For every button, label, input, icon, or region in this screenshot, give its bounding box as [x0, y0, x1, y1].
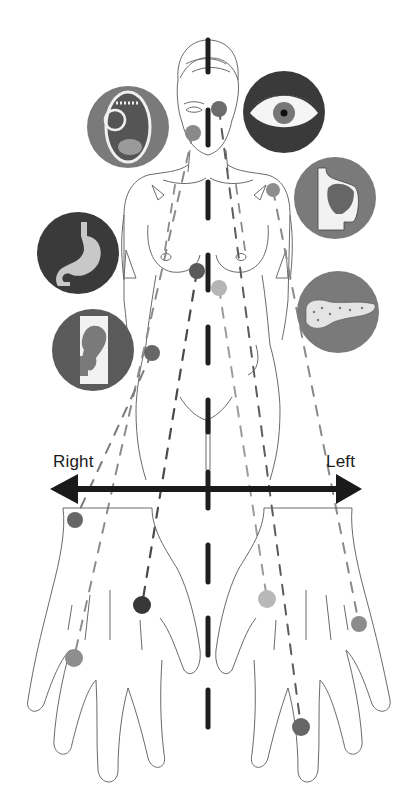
mouth-icon — [87, 86, 169, 168]
hip-point[interactable] — [144, 345, 160, 361]
liver-icon — [294, 157, 376, 239]
arrow-head-left-icon — [336, 474, 362, 504]
stomach-icon — [37, 212, 119, 294]
arrow-head-right-icon — [50, 474, 78, 504]
right-side-label: Right — [53, 452, 94, 472]
stomach-point[interactable] — [189, 263, 205, 279]
arrow-shaft — [76, 486, 340, 492]
hip-joint-icon — [52, 309, 134, 391]
left-hand-thumb-point[interactable] — [258, 590, 276, 608]
liver-point[interactable] — [266, 183, 280, 197]
left-hand — [216, 508, 390, 782]
eye-point[interactable] — [211, 101, 227, 117]
right-hand-palm-point[interactable] — [133, 596, 151, 614]
pancreas-icon — [297, 271, 379, 353]
right-hand-finger-point[interactable] — [65, 649, 83, 667]
pancreas-point[interactable] — [211, 280, 227, 296]
reflexology-diagram — [0, 0, 414, 806]
right-hand-wrist-point[interactable] — [67, 512, 83, 528]
right-hand — [28, 508, 201, 782]
left-hand-middle-finger-point[interactable] — [292, 718, 310, 736]
left-side-label: Left — [326, 452, 355, 472]
left-hand-edge-point[interactable] — [351, 616, 367, 632]
mouth-point[interactable] — [185, 125, 201, 141]
eye-icon — [243, 71, 325, 153]
